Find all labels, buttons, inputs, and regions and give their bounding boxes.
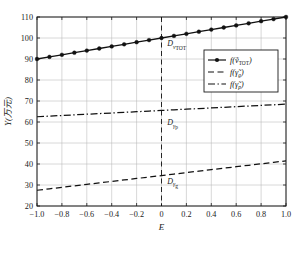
marker-0-18 (259, 19, 263, 23)
y-tick-label-4: 60 (25, 118, 33, 127)
chart-canvas: −1.0−0.8−0.6−0.4−0.200.20.40.60.81.02030… (0, 0, 299, 253)
marker-0-13 (197, 30, 201, 34)
marker-0-16 (234, 24, 238, 28)
x-axis-title: E (158, 222, 165, 232)
marker-0-12 (185, 32, 189, 36)
marker-0-17 (247, 21, 251, 25)
y-axis-title: Y(万元) (3, 97, 13, 126)
x-tick-label-2: −0.6 (79, 210, 94, 219)
marker-0-9 (147, 38, 151, 42)
x-tick-label-4: −0.2 (129, 210, 144, 219)
y-tick-label-3: 50 (25, 139, 33, 148)
marker-0-5 (97, 47, 101, 51)
marker-0-20 (284, 15, 288, 19)
marker-0-14 (209, 28, 213, 32)
marker-0-4 (85, 49, 89, 53)
x-tick-label-7: 0.4 (206, 210, 216, 219)
marker-0-19 (272, 17, 276, 21)
marker-0-8 (135, 40, 139, 44)
x-tick-label-6: 0.2 (181, 210, 191, 219)
x-tick-label-9: 0.8 (256, 210, 266, 219)
y-tick-label-2: 40 (25, 160, 33, 169)
chart-figure: −1.0−0.8−0.6−0.4−0.200.20.40.60.81.02030… (0, 0, 299, 253)
marker-0-2 (60, 53, 64, 57)
marker-0-1 (48, 55, 52, 59)
y-tick-label-8: 100 (21, 34, 33, 43)
marker-0-3 (72, 51, 76, 55)
y-axis-title-group: Y(万元) (3, 97, 13, 126)
y-tick-label-6: 80 (25, 76, 33, 85)
marker-0-0 (35, 57, 39, 61)
marker-0-15 (222, 26, 226, 30)
x-tick-label-8: 0.6 (231, 210, 241, 219)
legend-swatch-marker-0 (215, 58, 219, 62)
legend: f(ṽTOT)f(γ̃g)f(γ̃p) (204, 50, 278, 92)
y-tick-label-7: 90 (25, 55, 33, 64)
marker-0-7 (122, 42, 126, 46)
x-tick-label-0: −1.0 (30, 210, 45, 219)
marker-0-6 (110, 45, 114, 49)
y-tick-label-9: 110 (21, 13, 33, 22)
x-tick-label-10: 1.0 (281, 210, 291, 219)
legend-label-1: f(γ̃g) (230, 68, 244, 78)
y-tick-label-5: 70 (25, 97, 33, 106)
marker-0-10 (160, 36, 164, 40)
x-tick-label-5: 0 (159, 210, 163, 219)
x-tick-label-1: −0.8 (54, 210, 69, 219)
marker-0-11 (172, 34, 176, 38)
y-tick-label-0: 20 (25, 202, 33, 211)
x-tick-label-3: −0.4 (104, 210, 119, 219)
y-tick-label-1: 30 (25, 181, 33, 190)
legend-label-2: f(γ̃p) (230, 80, 244, 90)
